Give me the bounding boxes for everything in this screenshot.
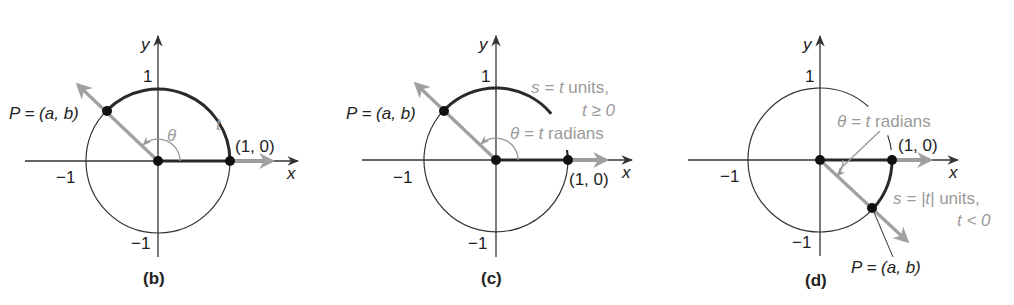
origin-point [491, 155, 501, 165]
tick-y-1: 1 [481, 67, 490, 86]
arc-length-label: s = t units, [531, 78, 609, 97]
tick-y-neg1: −1 [131, 234, 150, 253]
panel-d: y x 1 −1 −1 (1, 0) P = (a, b) θ = t radi… [688, 35, 991, 290]
unit-circle-segment [888, 135, 892, 150]
point-1-0 [887, 155, 897, 165]
arc-t [107, 89, 230, 161]
angle-leader-line [840, 131, 880, 169]
axis-label-y: y [802, 35, 813, 54]
terminal-ray [78, 85, 158, 161]
terminal-ray [416, 84, 496, 160]
axis-label-y: y [140, 35, 151, 54]
point-1-0-label: (1, 0) [898, 136, 938, 155]
arc-length-label: s = |t| units, [893, 189, 980, 208]
origin-point [153, 156, 163, 166]
tick-y-1: 1 [805, 67, 814, 86]
point-1-0 [225, 156, 235, 166]
point-p-label: P = (a, b) [346, 104, 416, 123]
angle-label: θ = t radians [837, 112, 931, 131]
point-1-0-label: (1, 0) [235, 137, 275, 156]
tick-x-neg1: −1 [393, 168, 412, 187]
axis-label-x: x [948, 163, 958, 182]
panel-caption-d: (d) [805, 271, 827, 290]
panel-caption-b: (b) [143, 269, 165, 288]
panel-c: y x 1 −1 −1 (1, 0) P = (a, b) s = t unit… [346, 35, 632, 288]
tick-y-neg1: −1 [468, 234, 487, 253]
point-1-0 [563, 155, 573, 165]
axis-label-x: x [621, 163, 631, 182]
angle-label-theta: θ [167, 126, 177, 145]
arc-condition-label: t ≥ 0 [582, 101, 615, 120]
point-p [867, 203, 877, 213]
origin-point [815, 155, 825, 165]
axis-label-y: y [478, 35, 489, 54]
angle-arc [837, 160, 843, 176]
point-1-0-label: (1, 0) [569, 170, 609, 189]
point-p-label: P = (a, b) [851, 258, 921, 277]
angle-label: θ = t radians [510, 124, 604, 143]
point-p [102, 106, 112, 116]
arc-s [874, 160, 893, 208]
point-p [439, 106, 449, 116]
tick-x-neg1: −1 [720, 167, 739, 186]
tick-x-neg1: −1 [56, 168, 75, 187]
tick-y-1: 1 [143, 67, 152, 86]
unit-circle-figure: y x 1 −1 −1 (1, 0) P = (a, b) t θ (b) y … [0, 0, 1014, 305]
panel-caption-c: (c) [481, 269, 502, 288]
panel-b: y x 1 −1 −1 (1, 0) P = (a, b) t θ (b) [9, 35, 298, 288]
tick-y-neg1: −1 [792, 233, 811, 252]
point-p-label: P = (a, b) [9, 104, 79, 123]
arc-condition-label: t < 0 [957, 211, 991, 230]
axis-label-x: x [286, 164, 296, 183]
